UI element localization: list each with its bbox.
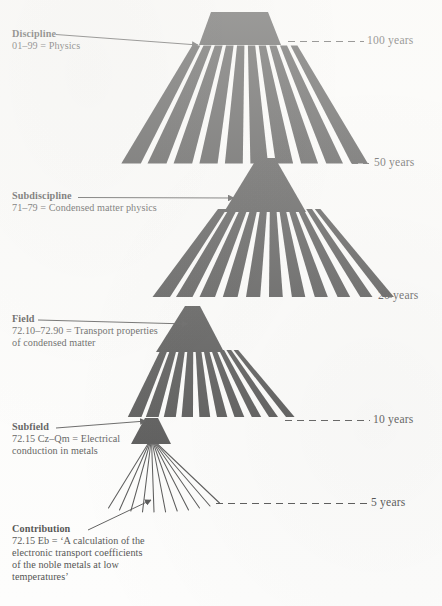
fan-subfield [109, 418, 220, 512]
year-label-20-years: 20 years [378, 289, 419, 302]
hierarchy-fan-figure [0, 0, 442, 606]
fan-line [152, 443, 154, 512]
fan-subdiscipline [153, 158, 395, 297]
fan-discipline [121, 12, 368, 164]
annotation-title: Discipline [12, 28, 80, 40]
year-label-100-years: 100 years [367, 34, 414, 47]
annotation-subfield: Subfield 72.15 Cz–Qm = Electrical conduc… [12, 421, 120, 457]
fan-line [155, 443, 200, 508]
annotation-body: 72.15 Eb = ‘A calculation of the electro… [12, 535, 145, 583]
fan-ray [279, 209, 305, 297]
fan-line [156, 443, 210, 506]
fan-ray [269, 209, 283, 297]
annotation-title: Subdiscipline [12, 190, 157, 202]
annotation-title: Contribution [12, 523, 145, 535]
annotation-body: 71–79 = Condensed matter physics [12, 202, 157, 214]
annotation-body: 72.10–72.90 = Transport properties of co… [12, 325, 158, 349]
fan-line [153, 443, 177, 511]
annotation-title: Field [12, 313, 158, 325]
year-label-10-years: 10 years [373, 413, 414, 426]
contribution-lines [109, 443, 220, 512]
field-cone [156, 306, 224, 352]
fan-line [156, 443, 219, 503]
annotation-contribution: Contribution 72.15 Eb = ‘A calculation o… [12, 523, 145, 583]
annotation-title: Subfield [12, 421, 120, 433]
year-label-5-years: 5 years [371, 496, 406, 509]
subdiscipline-cone [224, 158, 306, 212]
discipline-trunk [199, 12, 281, 45]
annotation-body: 72.15 Cz–Qm = Electrical conduction in m… [12, 433, 120, 457]
annotation-discipline: Discipline 01–99 = Physics [12, 28, 80, 52]
year-label-50-years: 50 years [374, 156, 415, 169]
annotation-subdiscipline: Subdiscipline 71–79 = Condensed matter p… [12, 190, 157, 214]
annotation-body: 01–99 = Physics [12, 40, 80, 52]
annotation-field: Field 72.10–72.90 = Transport properties… [12, 313, 158, 349]
